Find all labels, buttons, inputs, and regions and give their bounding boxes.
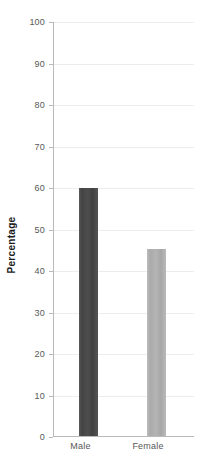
bar-male-fill — [79, 188, 98, 437]
bar-chart-figure: 100 90 80 70 60 50 40 30 20 10 0 Male Fe… — [0, 0, 210, 466]
y-tick-mark-80 — [49, 105, 53, 106]
gridline-90 — [53, 64, 194, 65]
y-axis-spine — [53, 22, 54, 437]
y-axis-title: Percentage — [0, 0, 22, 466]
y-tick-mark-100 — [49, 22, 53, 23]
y-tick-label-50: 50 — [35, 226, 45, 235]
y-tick-label-20: 20 — [35, 350, 45, 359]
y-tick-label-60: 60 — [35, 184, 45, 193]
y-tick-mark-10 — [49, 396, 53, 397]
gridline-80 — [53, 105, 194, 106]
x-axis-spine — [53, 436, 194, 437]
gridline-60 — [53, 188, 194, 189]
gridline-30 — [53, 313, 194, 314]
gridline-70 — [53, 147, 194, 148]
bar-female-fill — [147, 249, 166, 437]
gridline-20 — [53, 354, 194, 355]
y-tick-mark-30 — [49, 313, 53, 314]
plot-area — [53, 22, 194, 437]
y-tick-mark-0 — [49, 437, 53, 438]
y-axis-title-text: Percentage — [6, 217, 17, 274]
gridline-10 — [53, 396, 194, 397]
y-tick-mark-40 — [49, 271, 53, 272]
y-tick-label-80: 80 — [35, 101, 45, 110]
x-tick-label-male: Male — [58, 441, 103, 451]
gridline-50 — [53, 230, 194, 231]
y-tick-label-40: 40 — [35, 267, 45, 276]
bar-female — [147, 249, 166, 437]
gridline-40 — [53, 271, 194, 272]
y-tick-label-100: 100 — [29, 18, 45, 27]
bar-male — [79, 188, 98, 437]
y-tick-label-10: 10 — [35, 392, 45, 401]
y-tick-label-70: 70 — [35, 143, 45, 152]
y-tick-label-90: 90 — [35, 60, 45, 69]
y-tick-label-0: 0 — [40, 433, 45, 442]
y-tick-mark-70 — [49, 147, 53, 148]
y-tick-mark-90 — [49, 64, 53, 65]
y-tick-mark-60 — [49, 188, 53, 189]
y-tick-label-30: 30 — [35, 309, 45, 318]
x-tick-label-female: Female — [124, 441, 172, 451]
y-tick-mark-20 — [49, 354, 53, 355]
y-tick-mark-50 — [49, 230, 53, 231]
gridline-100 — [53, 22, 194, 23]
